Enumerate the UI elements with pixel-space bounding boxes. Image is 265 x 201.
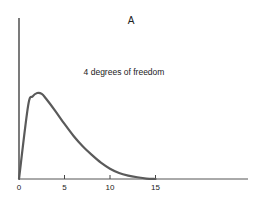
x-tick-label: 5	[62, 183, 67, 192]
x-tick-label: 0	[17, 183, 22, 192]
chart-title: A	[128, 15, 135, 26]
chi-square-chart: 051015 A 4 degrees of freedom	[0, 0, 265, 201]
x-tick-label: 10	[106, 183, 115, 192]
curve-annotation: 4 degrees of freedom	[84, 67, 165, 77]
x-tick-label: 15	[151, 183, 160, 192]
distribution-curve	[19, 93, 156, 179]
